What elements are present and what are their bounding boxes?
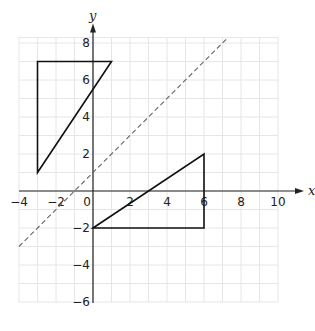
dashed-lines <box>19 39 226 246</box>
axes <box>19 23 304 303</box>
x-tick-label: 4 <box>163 195 171 209</box>
y-tick-label: 2 <box>82 147 90 161</box>
y-tick-label: 4 <box>82 110 90 124</box>
x-tick-label: 8 <box>237 195 245 209</box>
grid-lines <box>19 37 278 302</box>
y-tick-label: −2 <box>72 221 90 235</box>
x-tick-label: 10 <box>270 195 285 209</box>
y-tick-label: 6 <box>82 73 90 87</box>
x-tick-label: −2 <box>47 195 65 209</box>
y-tick-label: −6 <box>72 295 90 309</box>
y-tick-label: 8 <box>82 36 90 50</box>
x-axis-label: x <box>308 183 315 198</box>
y-axis-arrow-icon <box>90 23 96 32</box>
x-axis-arrow-icon <box>295 188 304 194</box>
y-axis-label: y <box>88 8 97 23</box>
line-of-reflection <box>19 39 226 246</box>
coordinate-plane: xy−4−20246810−6−4−22468 <box>0 0 315 331</box>
x-tick-label: 0 <box>83 195 91 209</box>
x-tick-label: −4 <box>10 195 28 209</box>
y-tick-label: −4 <box>72 258 90 272</box>
